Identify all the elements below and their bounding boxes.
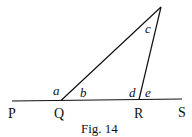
angle-label-d: d [129,85,136,100]
point-label-s: S [178,105,186,120]
angle-label-c: c [145,21,151,36]
angle-label-e: e [145,85,151,100]
point-label-r: R [134,106,144,121]
geometry-figure: c a b d e P Q R S Fig. 14 [0,0,192,137]
figure-caption: Fig. 14 [81,121,118,136]
point-label-q: Q [54,106,64,121]
angle-label-b: b [80,85,87,100]
angle-label-a: a [53,83,60,98]
line-ps [12,99,182,101]
point-label-p: P [8,106,16,121]
